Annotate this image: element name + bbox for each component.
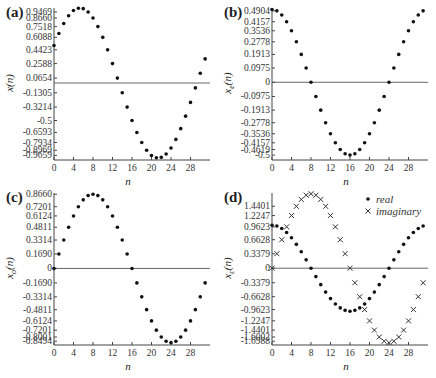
data-point-dot [402,243,406,247]
y-tick-label: -0.2778 [241,118,271,128]
panel-d: (d) 1.44011.22470.96230.66280.33790-0.33… [218,185,436,370]
y-axis-label: xo(n) [3,257,18,280]
y-tick-label: 0.6124 [26,211,52,221]
data-point-x-marker [401,328,406,333]
data-point-dot [125,252,129,256]
panel-a: (a) 0.94690.86600.75180.60880.44230.2588… [0,0,218,185]
data-point-dot [324,121,328,125]
data-point-x-marker [318,197,323,202]
data-point-dot [358,306,362,310]
data-point-x-marker [338,237,343,242]
data-point-dot [67,225,71,229]
data-point-dot [270,223,274,227]
x-tick-label: 28 [404,163,414,173]
x-tick-label: 16 [345,348,355,358]
y-tick-label: -0.9659 [23,150,53,160]
data-point-dot [140,295,144,299]
data-point-dot [314,275,318,279]
legend-real-label: real [376,193,393,205]
y-tick-label: 0 [47,263,52,273]
data-point-dot [86,10,90,14]
x-tick-label: 8 [309,163,314,173]
x-tick-label: 8 [91,348,96,358]
data-point-dot [62,238,66,242]
data-point-dot [198,295,202,299]
x-tick-label: 8 [309,348,314,358]
data-point-dot [373,121,377,125]
data-point-dot [299,53,303,57]
data-point-dot [412,231,416,235]
data-point-x-marker [274,251,279,256]
data-point-dot [382,95,386,99]
y-tick-label: 0.3379 [244,249,270,259]
x-tick-label: 20 [147,163,157,173]
data-point-dot [392,258,396,262]
data-point-dot [373,290,377,294]
y-tick-label: 0.0975 [244,63,270,73]
data-point-dot [106,205,110,209]
x-tick-label: 4 [289,348,294,358]
panel-c: (c) 0.86600.72010.61240.48110.33140.1690… [0,185,218,370]
data-point-dot [159,156,163,160]
data-point-dot [353,309,357,313]
data-point-dot [275,224,279,228]
data-point-dot [91,192,95,196]
data-point-x-marker [396,334,401,339]
y-tick-label: -0.5 [255,150,270,160]
data-point-dot [304,258,308,262]
data-point-dot [140,141,144,145]
data-point-dot [314,95,318,99]
data-point-dot [387,266,391,270]
data-point-dot [387,80,391,84]
data-point-x-marker [294,204,299,209]
data-point-x-marker [299,197,304,202]
x-tick-label: 28 [404,348,414,358]
data-point-dot [91,16,95,20]
y-tick-label: -0.3314 [23,292,53,302]
data-point-dot [329,297,333,301]
data-point-dot [280,13,284,17]
data-point-dot [111,62,115,66]
data-point-dot [358,148,362,152]
data-point-x-marker [377,334,382,339]
data-point-x-marker [279,237,284,242]
y-tick-label: 0 [265,263,270,273]
y-tick-label: -0.1913 [241,105,271,115]
data-point-x-marker [421,280,426,285]
x-tick-label: 12 [108,348,118,358]
data-point-x-marker [416,294,421,299]
data-point-x-marker [333,224,338,229]
data-point-dot [150,319,154,323]
y-tick-label: 0.2778 [244,37,270,47]
y-tick-label: 0.9623 [244,222,270,232]
data-point-dot [120,91,124,95]
panel-label-d: (d) [224,189,242,206]
data-point-dot [169,341,173,345]
data-point-dot [319,108,323,112]
x-tick-label: 12 [108,163,118,173]
data-point-dot [304,66,308,70]
y-tick-label: -0.0975 [241,91,271,101]
y-axis-label: x(n) [3,74,16,93]
y-tick-label: -0.6628 [241,292,271,302]
data-point-dot [402,40,406,44]
x-tick-label: 20 [147,348,157,358]
data-point-x-marker [372,328,377,333]
data-point-dot [125,105,129,109]
data-point-dot [194,308,198,312]
data-point-dot [81,198,85,202]
data-point-dot [309,266,313,270]
data-point-dot [338,306,342,310]
panel-label-a: (a) [6,4,24,21]
y-tick-label: 0.1690 [26,249,52,259]
data-point-dot [348,153,352,157]
panel-label-c: (c) [6,189,23,206]
data-point-dot [86,194,90,198]
y-tick-label: 0 [265,77,270,87]
data-point-dot [368,297,372,301]
y-tick-label: 0.0654 [26,73,52,83]
data-point-x-marker [382,339,387,344]
data-point-dot [159,335,163,339]
data-point-dot [116,76,120,80]
data-point-dot [270,8,274,12]
